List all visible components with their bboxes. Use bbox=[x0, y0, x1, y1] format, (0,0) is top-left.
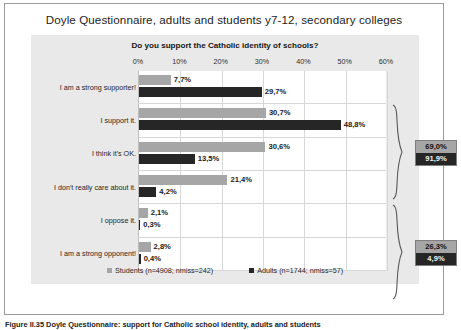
legend-swatch-icon bbox=[107, 268, 112, 273]
callout-students-total: 26,3% bbox=[416, 241, 456, 253]
x-axis-tick-labels: 0%10%20%30%40%50%60% bbox=[138, 57, 386, 69]
figure-title: Doyle Questionnaire, adults and students… bbox=[5, 13, 443, 26]
chart-subtitle: Do you support the Catholic identity of … bbox=[31, 41, 419, 50]
bar-students bbox=[139, 75, 171, 85]
callout-adults-total: 4,9% bbox=[416, 253, 456, 265]
bar-students bbox=[139, 175, 227, 185]
bar-value-label: 48,8% bbox=[344, 120, 366, 130]
category-label: I am a strong opponent! bbox=[30, 249, 136, 259]
bar-adults bbox=[139, 187, 156, 197]
bar-adults bbox=[139, 87, 262, 97]
bar-value-label: 2,1% bbox=[151, 208, 168, 218]
bar-value-label: 29,7% bbox=[265, 87, 287, 97]
bar-group: 7,7%29,7% bbox=[139, 71, 386, 104]
legend-label: Adults (n=1744; nmiss=57) bbox=[257, 266, 343, 275]
figure-caption: Figure II.35 Doyle Questionnaire: suppor… bbox=[5, 320, 449, 329]
bar-adults bbox=[139, 254, 141, 264]
bar-group: 30,6%13,5% bbox=[139, 138, 386, 171]
grouping-brace bbox=[391, 104, 407, 200]
grouping-brace bbox=[391, 204, 407, 300]
figure-frame: Doyle Questionnaire, adults and students… bbox=[4, 3, 444, 315]
category-label: I think it's OK. bbox=[30, 149, 136, 159]
x-axis-tick: 20% bbox=[213, 57, 227, 66]
x-axis-tick: 0% bbox=[133, 57, 143, 66]
bar-value-label: 21,4% bbox=[230, 175, 252, 185]
category-label: I don't really care about it. bbox=[30, 183, 136, 193]
callout-adults-total: 91,9% bbox=[416, 153, 456, 165]
legend-item[interactable]: Students (n=4908; nmiss=242) bbox=[107, 266, 213, 275]
legend-label: Students (n=4908; nmiss=242) bbox=[115, 266, 213, 275]
plot-area: 7,7%29,7%30,7%48,8%30,6%13,5%21,4%4,2%2,… bbox=[138, 71, 386, 271]
y-axis-category-labels: I am a strong supporter!I support it.I t… bbox=[31, 71, 136, 271]
bar-students bbox=[139, 142, 265, 152]
bar-value-label: 13,5% bbox=[198, 154, 220, 164]
summary-annotations: 69,0%91,9%26,3%4,9% bbox=[387, 66, 461, 315]
category-label: I support it. bbox=[30, 116, 136, 126]
bar-group: 2,1%0,3% bbox=[139, 204, 386, 237]
bar-adults bbox=[139, 120, 341, 130]
legend-swatch-icon bbox=[249, 268, 254, 273]
bar-students bbox=[139, 242, 151, 252]
bar-value-label: 0,4% bbox=[144, 254, 161, 264]
bar-group: 21,4%4,2% bbox=[139, 171, 386, 204]
summary-callout: 26,3%4,9% bbox=[415, 240, 457, 266]
bar-value-label: 30,7% bbox=[269, 108, 291, 118]
x-axis-tick: 50% bbox=[337, 57, 351, 66]
bar-adults bbox=[139, 154, 195, 164]
x-axis-tick: 10% bbox=[172, 57, 186, 66]
x-axis-tick: 30% bbox=[255, 57, 269, 66]
bar-value-label: 30,6% bbox=[268, 142, 290, 152]
bar-students bbox=[139, 208, 148, 218]
summary-callout: 69,0%91,9% bbox=[415, 140, 457, 166]
chart-panel: Do you support the Catholic identity of … bbox=[31, 35, 419, 284]
chart-legend: Students (n=4908; nmiss=242)Adults (n=17… bbox=[31, 266, 419, 275]
x-axis-tick: 40% bbox=[296, 57, 310, 66]
bar-value-label: 2,8% bbox=[154, 242, 171, 252]
category-label: I am a strong supporter! bbox=[30, 83, 136, 93]
callout-students-total: 69,0% bbox=[416, 141, 456, 153]
bar-students bbox=[139, 108, 266, 118]
bar-adults bbox=[139, 220, 140, 230]
bar-value-label: 4,2% bbox=[159, 187, 176, 197]
category-label: I oppose it. bbox=[30, 216, 136, 226]
bar-value-label: 7,7% bbox=[174, 75, 191, 85]
legend-item[interactable]: Adults (n=1744; nmiss=57) bbox=[249, 266, 343, 275]
bar-value-label: 0,3% bbox=[143, 220, 160, 230]
bar-group: 30,7%48,8% bbox=[139, 104, 386, 137]
x-axis-tick: 60% bbox=[379, 57, 393, 66]
